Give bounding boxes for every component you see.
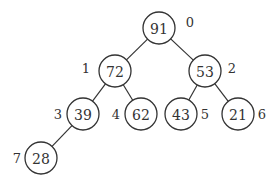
- tree-node: 910: [143, 12, 194, 44]
- tree-node: 435: [165, 98, 209, 130]
- node-index-label: 7: [13, 151, 21, 166]
- node-value: 28: [32, 151, 50, 167]
- node-index-label: 2: [228, 61, 236, 76]
- tree-node: 287: [13, 142, 57, 174]
- node-index-label: 4: [112, 107, 120, 122]
- node-index-label: 1: [82, 61, 90, 76]
- node-value: 91: [150, 21, 168, 37]
- tree-node: 216: [222, 98, 266, 130]
- tree-edge: [126, 39, 147, 60]
- heap-tree-diagram: 910721532393624435216287: [0, 0, 274, 184]
- tree-nodes: 910721532393624435216287: [13, 12, 266, 174]
- tree-edge: [52, 126, 72, 147]
- tree-edge: [123, 85, 132, 101]
- tree-node: 393: [54, 98, 99, 130]
- node-value: 62: [132, 107, 150, 123]
- node-value: 53: [196, 64, 214, 80]
- tree-edge: [215, 84, 229, 102]
- tree-node: 532: [189, 55, 236, 87]
- node-index-label: 0: [186, 15, 194, 30]
- tree-edge: [171, 39, 194, 60]
- node-value: 43: [172, 107, 190, 123]
- node-index-label: 5: [201, 107, 209, 122]
- node-index-label: 6: [258, 107, 266, 122]
- node-index-label: 3: [54, 107, 62, 122]
- tree-node: 624: [112, 98, 157, 130]
- tree-edge: [93, 84, 106, 101]
- node-value: 21: [229, 107, 247, 123]
- tree-edge: [189, 85, 197, 100]
- node-value: 72: [106, 64, 124, 80]
- tree-node: 721: [82, 55, 131, 87]
- node-value: 39: [74, 107, 92, 123]
